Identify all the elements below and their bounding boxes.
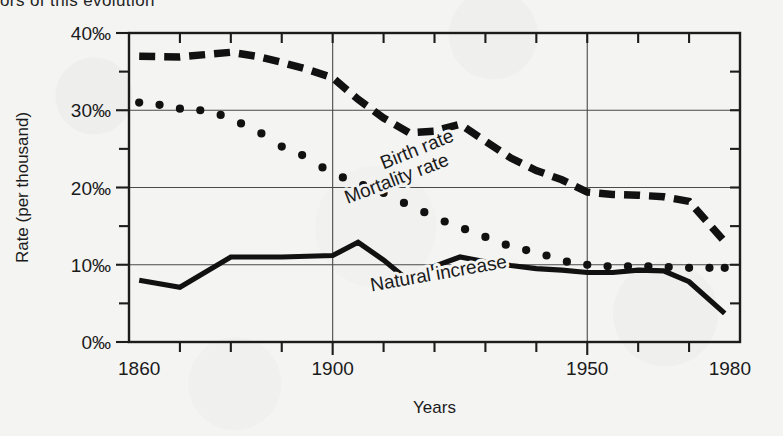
x-axis-title: Years (413, 398, 456, 417)
data-point-mortality-rate (563, 258, 571, 266)
grid-layer (129, 33, 740, 342)
data-point-mortality-rate (237, 119, 245, 127)
data-point-mortality-rate (604, 262, 612, 270)
data-point-mortality-rate (318, 163, 326, 171)
ytick-label: 40‰ (71, 23, 111, 44)
data-point-mortality-rate (257, 129, 265, 137)
xtick-label: 1860 (118, 358, 160, 379)
data-point-mortality-rate (176, 105, 184, 113)
clipped-heading: ors of this evolution (0, 0, 783, 9)
data-point-mortality-rate (522, 246, 530, 254)
data-point-mortality-rate (196, 106, 204, 114)
ytick-label: 0‰ (81, 332, 111, 353)
data-point-mortality-rate (278, 142, 286, 150)
data-point-mortality-rate (400, 199, 408, 207)
ytick-label: 30‰ (71, 100, 111, 121)
data-point-mortality-rate (542, 251, 550, 259)
data-point-mortality-rate (441, 217, 449, 225)
data-point-mortality-rate (583, 261, 591, 269)
data-point-mortality-rate (135, 98, 143, 106)
demographic-transition-chart: 18601900195019800‰10‰20‰30‰40‰ YearsRate… (0, 0, 783, 436)
data-point-mortality-rate (298, 151, 306, 159)
data-point-mortality-rate (420, 208, 428, 216)
data-point-mortality-rate (217, 111, 225, 119)
series-label-natural-increase: Natural increase (369, 251, 509, 296)
tick-layer: 18601900195019800‰10‰20‰30‰40‰ (71, 23, 751, 379)
data-point-mortality-rate (481, 233, 489, 241)
data-point-mortality-rate (721, 264, 729, 272)
chart-figure: ors of this evolution 18601900195019800‰… (0, 0, 783, 436)
data-point-mortality-rate (685, 264, 693, 272)
data-point-mortality-rate (502, 241, 510, 249)
ytick-label: 10‰ (71, 255, 111, 276)
data-point-mortality-rate (339, 173, 347, 181)
xtick-label: 1950 (566, 358, 608, 379)
xtick-label: 1900 (312, 358, 354, 379)
data-point-mortality-rate (461, 225, 469, 233)
ytick-label: 20‰ (71, 178, 111, 199)
xtick-label: 1980 (709, 358, 751, 379)
data-point-mortality-rate (155, 101, 163, 109)
y-axis-title: Rate (per thousand) (13, 112, 32, 263)
data-point-mortality-rate (705, 264, 713, 272)
